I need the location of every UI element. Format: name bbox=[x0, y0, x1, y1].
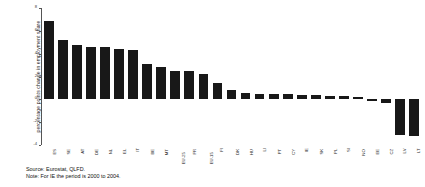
x-tick-label: NO bbox=[352, 146, 364, 168]
y-tick-mark bbox=[39, 31, 41, 32]
x-tick-label: EU-25 bbox=[169, 146, 181, 168]
x-tick-label-text: NL bbox=[108, 149, 113, 155]
bar bbox=[142, 64, 152, 99]
y-tick-label: -2 bbox=[33, 118, 37, 123]
source-note: Source: Eurostat, QLFD. bbox=[26, 166, 356, 173]
x-tick-label-text: LV bbox=[402, 148, 407, 153]
bar bbox=[199, 74, 209, 99]
bar bbox=[395, 99, 405, 135]
x-tick-label-text: SI bbox=[346, 148, 351, 152]
y-tick-label: 8 bbox=[35, 4, 37, 9]
bar bbox=[114, 49, 124, 100]
x-tick-label-text: IE bbox=[304, 148, 309, 152]
plot-area: percentage points change in employment s… bbox=[41, 8, 421, 145]
y-tick-mark bbox=[39, 145, 41, 146]
x-tick-label-text: FI bbox=[219, 148, 224, 152]
x-tick-label: EL bbox=[113, 146, 125, 168]
x-tick-label: LI bbox=[254, 146, 266, 168]
x-tick-label-text: LI bbox=[261, 148, 266, 152]
x-tick-label-text: PT bbox=[276, 149, 281, 155]
x-tick-label-text: LT bbox=[416, 148, 421, 153]
x-tick-label-text: IT bbox=[135, 148, 140, 152]
chart-figure: percentage points change in employment s… bbox=[0, 0, 425, 187]
x-tick-label: SI bbox=[338, 146, 350, 168]
y-tick-label: 0 bbox=[35, 95, 37, 100]
bar bbox=[367, 99, 377, 101]
x-tick-label: PT bbox=[268, 146, 280, 168]
x-tick-label: SK bbox=[310, 146, 322, 168]
bar bbox=[269, 94, 279, 100]
bar bbox=[58, 40, 68, 99]
x-tick-label: EU-15 bbox=[197, 146, 209, 168]
y-tick-mark bbox=[39, 54, 41, 55]
y-tick-mark bbox=[39, 122, 41, 123]
x-tick-label: LT bbox=[408, 146, 420, 168]
x-tick-label: BE bbox=[141, 146, 153, 168]
bar bbox=[241, 93, 251, 99]
figure-footnotes: Source: Eurostat, QLFD. Note: For IE the… bbox=[26, 166, 356, 181]
bar bbox=[184, 71, 194, 100]
bar bbox=[72, 45, 82, 100]
bar bbox=[283, 94, 293, 99]
y-tick-label: -4 bbox=[33, 141, 37, 146]
bar bbox=[339, 96, 349, 99]
x-tick-label: DK bbox=[226, 146, 238, 168]
x-tick-label-text: EL bbox=[122, 149, 127, 154]
x-tick-label: IE bbox=[296, 146, 308, 168]
y-tick-mark bbox=[39, 77, 41, 78]
x-tick-label-text: AT bbox=[80, 149, 85, 154]
bar bbox=[409, 99, 419, 136]
x-tick-label: SE bbox=[57, 146, 69, 168]
x-tick-label: MT bbox=[155, 146, 167, 168]
x-tick-label: ES bbox=[43, 146, 55, 168]
bar bbox=[44, 21, 54, 100]
y-tick-label: 2 bbox=[35, 73, 37, 78]
x-tick-label: NL bbox=[99, 146, 111, 168]
bar bbox=[156, 67, 166, 99]
x-tick-label: FI bbox=[211, 146, 223, 168]
x-tick-label: HU bbox=[240, 146, 252, 168]
x-tick-label: DE bbox=[85, 146, 97, 168]
x-tick-label: AT bbox=[71, 146, 83, 168]
bar bbox=[100, 47, 110, 100]
x-tick-label: PL bbox=[324, 146, 336, 168]
method-note: Note: For IE the period is 2000 to 2004. bbox=[26, 173, 356, 180]
bar bbox=[353, 97, 363, 100]
bar bbox=[297, 95, 307, 100]
x-tick-label: FR bbox=[183, 146, 195, 168]
bar bbox=[86, 47, 96, 100]
bar bbox=[170, 71, 180, 100]
x-tick-label: CY bbox=[282, 146, 294, 168]
bar bbox=[227, 90, 237, 99]
bar bbox=[128, 50, 138, 100]
x-tick-label: EE bbox=[366, 146, 378, 168]
bar bbox=[213, 83, 223, 100]
bar bbox=[311, 95, 321, 99]
bar bbox=[381, 99, 391, 103]
y-tick-mark bbox=[39, 8, 41, 9]
x-tick-label: IT bbox=[127, 146, 139, 168]
bar-series bbox=[42, 8, 421, 145]
x-tick-label-text: PL bbox=[332, 149, 337, 154]
y-tick-label: 6 bbox=[35, 27, 37, 32]
x-tick-label: LV bbox=[394, 146, 406, 168]
bar bbox=[325, 96, 335, 99]
y-tick-label: 4 bbox=[35, 50, 37, 55]
x-tick-label: CZ bbox=[380, 146, 392, 168]
y-tick-mark bbox=[39, 99, 41, 100]
bar bbox=[255, 94, 265, 100]
